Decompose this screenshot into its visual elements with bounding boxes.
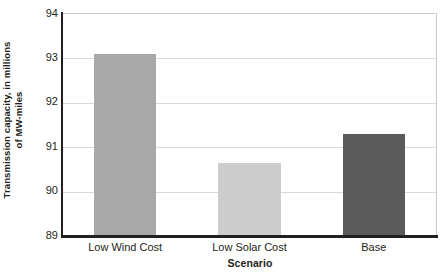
x-axis-line <box>61 235 438 238</box>
bar <box>218 163 280 236</box>
y-axis-tick-label: 90 <box>34 185 58 196</box>
y-axis-title: Transmission capacity, in millions of MW… <box>0 0 26 240</box>
y-axis-tick-label: 94 <box>34 8 58 19</box>
x-axis-tick-label: Low Wind Cost <box>63 240 187 254</box>
y-axis-title-line-1: Transmission capacity, in millions <box>1 42 13 199</box>
plot-area <box>63 13 437 236</box>
y-axis-tick-label: 91 <box>34 141 58 152</box>
y-axis-tick-label: 89 <box>34 230 58 241</box>
x-axis-tick-label: Low Solar Cost <box>187 240 311 254</box>
x-axis-title: Scenario <box>63 257 437 270</box>
y-axis-tick-labels: 949392919089 <box>30 0 58 250</box>
x-axis-tick-label: Base <box>312 240 436 254</box>
y-axis-title-line-2: of MW-miles <box>13 42 25 199</box>
y-axis-tick-label: 93 <box>34 52 58 63</box>
bar <box>94 54 156 236</box>
bar <box>343 134 405 236</box>
y-axis-tick-label: 92 <box>34 96 58 107</box>
x-axis-tick-labels: Low Wind CostLow Solar CostBase <box>63 240 437 258</box>
bar-chart: Transmission capacity, in millions of MW… <box>0 0 448 274</box>
